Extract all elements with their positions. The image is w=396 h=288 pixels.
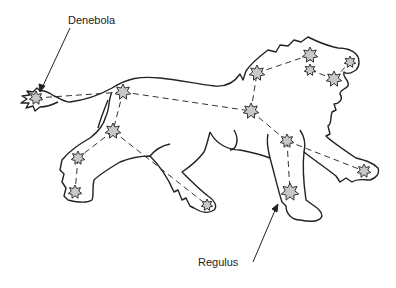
stars-group bbox=[29, 47, 371, 210]
star-hind-leg-upper-icon bbox=[71, 151, 85, 164]
label-denebola: Denebola bbox=[68, 14, 115, 26]
star-face-icon bbox=[344, 56, 356, 67]
star-head-small-icon bbox=[304, 64, 316, 75]
star-front-paw-icon bbox=[357, 164, 371, 177]
star-denebola-icon bbox=[29, 91, 43, 104]
star-body-right-icon bbox=[243, 103, 259, 118]
star-mane-icon bbox=[249, 65, 265, 80]
star-hind-paw-icon bbox=[201, 199, 213, 210]
constellation-lines bbox=[36, 55, 364, 205]
label-arrows bbox=[39, 28, 278, 262]
star-back-icon bbox=[115, 84, 131, 99]
star-hip-icon bbox=[105, 123, 121, 138]
leo-diagram bbox=[0, 0, 396, 288]
star-muzzle-icon bbox=[326, 71, 342, 86]
star-hind-leg-lower-icon bbox=[68, 185, 82, 198]
label-regulus: Regulus bbox=[198, 256, 238, 268]
star-regulus-icon bbox=[281, 183, 299, 200]
star-chest-icon bbox=[280, 134, 294, 147]
star-head-top-icon bbox=[302, 47, 318, 62]
